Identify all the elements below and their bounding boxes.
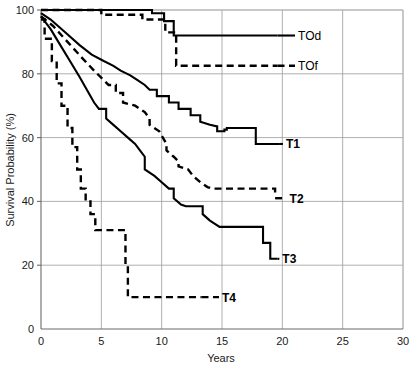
series-label-tod: TOd: [298, 29, 321, 43]
y-tick-label: 60: [22, 132, 34, 144]
series-label-t3: T3: [282, 252, 296, 266]
series-leader-lines-group: [201, 36, 295, 298]
x-axis-title: Years: [207, 352, 235, 364]
chart-canvas: TOdTOfT1T2T3T4 051015202530 020406080100…: [0, 0, 415, 370]
y-tick-label: 40: [22, 195, 34, 207]
x-tick-label: 5: [98, 335, 104, 347]
y-tick-label: 80: [22, 68, 34, 80]
y-tick-label: 100: [16, 4, 34, 16]
x-tick-label: 15: [216, 335, 228, 347]
y-axis-tick-labels: 020406080100: [16, 4, 41, 335]
series-label-t1: T1: [286, 137, 300, 151]
y-axis-title: Survival Probability (%): [4, 113, 16, 227]
x-tick-label: 10: [156, 335, 168, 347]
series-label-tof: TOf: [298, 59, 318, 73]
series-labels-group: TOdTOfT1T2T3T4: [222, 29, 321, 305]
y-tick-label: 0: [28, 323, 34, 335]
series-curve-tof: [41, 10, 278, 66]
gridlines-group: [41, 10, 403, 329]
series-label-t4: T4: [222, 291, 236, 305]
x-tick-label: 25: [337, 335, 349, 347]
x-axis-tick-labels: 051015202530: [38, 335, 409, 347]
x-tick-label: 30: [397, 335, 409, 347]
series-curve-t4: [41, 20, 201, 298]
x-tick-label: 20: [276, 335, 288, 347]
x-tick-label: 0: [38, 335, 44, 347]
series-curves-group: [41, 10, 280, 297]
y-tick-label: 20: [22, 259, 34, 271]
series-curve-tod: [41, 10, 278, 36]
series-label-t2: T2: [290, 192, 304, 206]
survival-chart-figure: TOdTOfT1T2T3T4 051015202530 020406080100…: [0, 0, 415, 370]
series-curve-t1: [41, 13, 280, 144]
